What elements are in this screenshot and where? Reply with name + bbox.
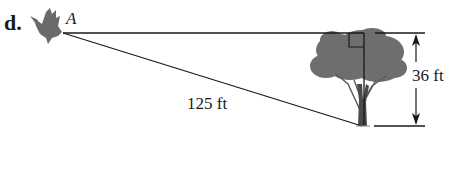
distance-label: 125 ft (187, 94, 227, 113)
problem-label: d. (4, 10, 22, 35)
trig-diagram: d. A (0, 0, 471, 175)
bird-icon (30, 8, 62, 44)
tree-icon (310, 28, 407, 126)
point-a-label: A (65, 9, 77, 28)
height-label: 36 ft (412, 66, 444, 85)
